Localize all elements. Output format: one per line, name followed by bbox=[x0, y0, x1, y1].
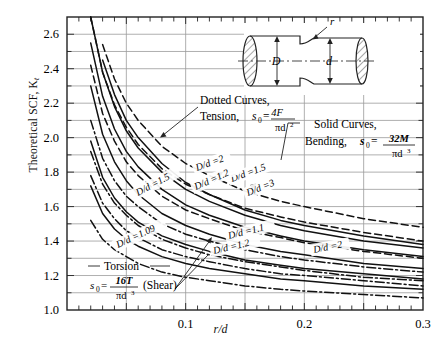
solid-curves-line2: Bending, bbox=[305, 135, 347, 148]
solid-curves-annotation: Solid Curves, Bending, s 0 = 32M πd 3 bbox=[305, 118, 415, 159]
torsion-s0-symbol: s bbox=[90, 279, 94, 291]
y-axis-label-sub: t bbox=[32, 78, 41, 80]
dotted-denominator: πd bbox=[275, 122, 286, 133]
torsion-line1: Torsion bbox=[104, 260, 139, 272]
solid-equals: = bbox=[371, 135, 378, 147]
inset-label-d: d bbox=[326, 54, 333, 68]
y-axis-label-text: Theoretical SCF, K bbox=[27, 80, 39, 172]
torsion-denominator: πd bbox=[116, 290, 127, 301]
inset-label-r: r bbox=[330, 15, 335, 27]
solid-s0-symbol: s bbox=[359, 135, 365, 147]
dotted-numerator: 4F bbox=[271, 107, 283, 118]
y-tick-label: 2.0 bbox=[43, 131, 59, 145]
curve-label: D/d =2 bbox=[309, 237, 350, 256]
y-tick-label: 1.4 bbox=[43, 234, 59, 248]
torsion-annotation: Torsion s 0 = 16T πd 3 (Shear) bbox=[88, 260, 177, 301]
y-axis-label: Theoretical SCF, Kt bbox=[27, 45, 41, 205]
y-tick-label: 2.6 bbox=[43, 27, 59, 41]
torsion-denominator-exp: 3 bbox=[131, 289, 135, 297]
dotted-denominator-exp: 2 bbox=[290, 121, 294, 129]
x-axis-label: r/d bbox=[0, 322, 441, 337]
torsion-numerator: 16T bbox=[116, 275, 134, 286]
y-tick-label: 2.4 bbox=[43, 62, 59, 76]
dotted-s0-symbol: s bbox=[252, 110, 257, 122]
dotted-equals: = bbox=[263, 110, 270, 122]
y-tick-label: 1.8 bbox=[43, 165, 59, 179]
solid-s0-sub: 0 bbox=[366, 141, 370, 150]
solid-denominator: πd bbox=[392, 148, 403, 159]
solid-denominator-exp: 3 bbox=[407, 147, 411, 155]
torsion-s0-sub: 0 bbox=[96, 285, 100, 294]
y-tick-label: 1.0 bbox=[43, 303, 59, 317]
y-tick-label: 1.6 bbox=[43, 200, 59, 214]
y-tick-label: 1.2 bbox=[43, 269, 59, 283]
solid-numerator: 32M bbox=[388, 133, 410, 144]
y-tick-label: 2.2 bbox=[43, 96, 59, 110]
dotted-curves-annotation: Dotted Curves, Tension, s 0 = 4F πd 2 bbox=[200, 94, 295, 133]
dotted-curves-line2: Tension, bbox=[200, 110, 239, 123]
y-tick-labels: 1.01.21.41.61.82.02.22.42.6 bbox=[43, 27, 59, 317]
chart-canvas: 1.01.21.41.61.82.02.22.42.6 0.10.20.3 bbox=[0, 0, 441, 344]
dotted-curves-line1: Dotted Curves, bbox=[200, 94, 270, 107]
torsion-shear-note: (Shear) bbox=[143, 279, 177, 292]
torsion-equals: = bbox=[101, 279, 107, 291]
curve-label: D/d =1.5 bbox=[131, 166, 181, 200]
dotted-s0-sub: 0 bbox=[258, 116, 262, 125]
solid-curves-line1: Solid Curves, bbox=[314, 118, 377, 131]
inset-label-D: D bbox=[271, 54, 281, 68]
curve-label-text: D/d =3 bbox=[244, 177, 276, 199]
scf-chart-figure: 1.01.21.41.61.82.02.22.42.6 0.10.20.3 bbox=[0, 0, 441, 344]
shaft-inset-diagram: D d r bbox=[238, 15, 420, 95]
